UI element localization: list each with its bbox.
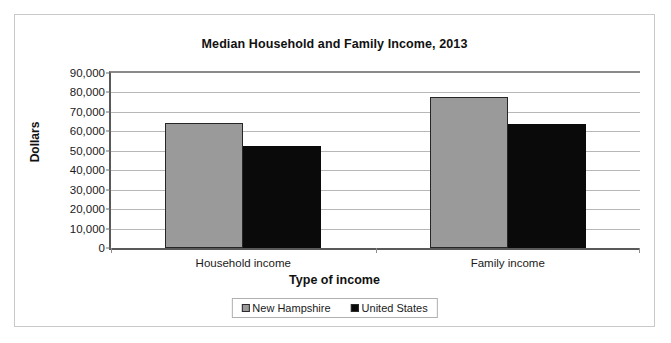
y-axis-tick-label: 30,000 <box>70 184 105 196</box>
y-axis-tick-label: 20,000 <box>70 203 105 215</box>
legend-item-united-states: United States <box>351 302 428 314</box>
chart-container: Median Household and Family Income, 2013… <box>14 14 655 327</box>
y-axis-tick-label: 10,000 <box>70 223 105 235</box>
bar-united-states-household-income <box>243 146 321 248</box>
plot-area: 010,00020,00030,00040,00050,00060,00070,… <box>109 71 640 250</box>
y-axis-title: Dollars <box>28 92 42 192</box>
bar-new-hampshire-family-income <box>430 97 508 248</box>
y-axis-tick-label: 50,000 <box>70 145 105 157</box>
chart-legend: New HampshireUnited States <box>231 298 437 318</box>
y-axis-tick-label: 0 <box>99 242 105 254</box>
y-axis-tick-mark <box>106 150 111 151</box>
x-axis-category-label: Family income <box>471 257 545 269</box>
y-axis-tick-mark <box>106 73 111 74</box>
y-axis-tick-mark <box>106 131 111 132</box>
bar-new-hampshire-household-income <box>165 123 243 248</box>
y-axis-tick-mark <box>106 170 111 171</box>
chart-title: Median Household and Family Income, 2013 <box>15 37 654 51</box>
x-axis-tick-mark <box>639 248 640 253</box>
legend-label: New Hampshire <box>252 302 330 314</box>
y-axis-tick-mark <box>106 111 111 112</box>
legend-swatch-icon <box>351 304 359 312</box>
y-axis-tick-label: 60,000 <box>70 125 105 137</box>
bar-united-states-family-income <box>508 124 586 248</box>
legend-swatch-icon <box>241 304 249 312</box>
x-axis-tick-mark <box>111 248 112 253</box>
legend-item-new-hampshire: New Hampshire <box>241 302 330 314</box>
y-axis-tick-label: 80,000 <box>70 86 105 98</box>
y-axis-tick-mark <box>106 228 111 229</box>
y-axis-tick-label: 70,000 <box>70 106 105 118</box>
y-axis-tick-label: 40,000 <box>70 164 105 176</box>
legend-label: United States <box>362 302 428 314</box>
x-axis-tick-mark <box>376 248 377 253</box>
gridline <box>111 112 640 113</box>
y-axis-tick-mark <box>106 209 111 210</box>
y-axis-tick-mark <box>106 189 111 190</box>
x-axis-category-label: Household income <box>196 257 291 269</box>
gridline <box>111 92 640 93</box>
y-axis-tick-label: 90,000 <box>70 67 105 79</box>
x-axis-title: Type of income <box>15 273 654 287</box>
y-axis-tick-mark <box>106 92 111 93</box>
